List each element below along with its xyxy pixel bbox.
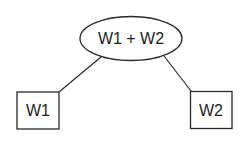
right-node: W2 <box>191 92 233 129</box>
w2-label: W2 <box>199 102 223 119</box>
left-node: W1 <box>17 92 59 129</box>
root-node: W1 + W2 <box>80 17 182 61</box>
w1-label: W1 <box>26 102 50 119</box>
edge-root-to-w2 <box>164 56 191 91</box>
root-label: W1 + W2 <box>98 30 164 47</box>
tree-diagram: W1 + W2 W1 W2 <box>0 0 248 144</box>
edge-root-to-w1 <box>59 57 101 92</box>
